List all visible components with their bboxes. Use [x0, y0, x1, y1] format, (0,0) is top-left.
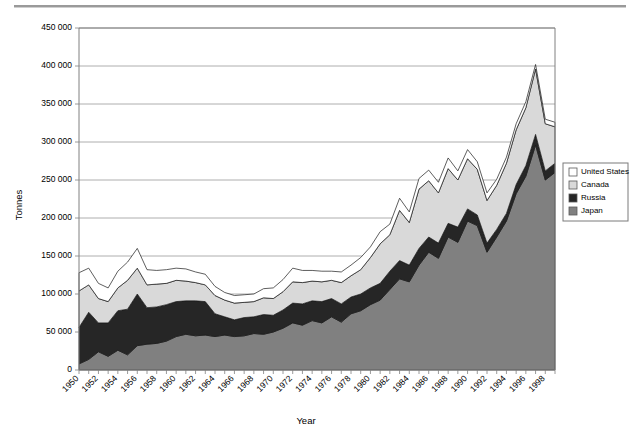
x-tick-label: 1986 — [410, 373, 431, 394]
x-tick-label: 1998 — [526, 373, 547, 394]
x-tick-label: 1996 — [507, 373, 528, 394]
x-tick-label: 1982 — [371, 373, 392, 394]
x-tick-label: 1972 — [274, 373, 295, 394]
x-tick-label: 1964 — [196, 373, 217, 394]
legend-swatch-japan — [569, 207, 577, 215]
legend-label-united-states: United States — [581, 167, 629, 176]
legend-label-canada: Canada — [581, 180, 610, 189]
x-tick-label: 1974 — [293, 373, 314, 394]
y-tick-label: 350 000 — [41, 98, 72, 108]
x-tick-label: 1992 — [468, 373, 489, 394]
x-tick-label: 1950 — [60, 373, 81, 394]
x-tick-label: 1970 — [254, 373, 275, 394]
y-tick-label: 250 000 — [41, 174, 72, 184]
x-tick-label: 1990 — [449, 373, 470, 394]
y-tick-label: 400 000 — [41, 60, 72, 70]
x-tick-label: 1994 — [487, 373, 508, 394]
y-tick-label: 450 000 — [41, 22, 72, 32]
x-tick-label: 1976 — [313, 373, 334, 394]
legend-swatch-russia — [569, 194, 577, 202]
stacked-area-chart: 050 000100 000150 000200 000250 000300 0… — [0, 0, 640, 435]
legend: United StatesCanadaRussiaJapan — [563, 163, 629, 221]
x-axis-title: Year — [296, 415, 315, 426]
x-tick-label: 1956 — [118, 373, 139, 394]
x-tick-label: 1980 — [351, 373, 372, 394]
legend-label-japan: Japan — [581, 206, 603, 215]
x-tick-label: 1988 — [429, 373, 450, 394]
x-tick-label: 1958 — [138, 373, 159, 394]
x-tick-labels: 1950195219541956195819601962196419661968… — [60, 373, 547, 394]
y-tick-labels: 050 000100 000150 000200 000250 000300 0… — [41, 22, 79, 374]
y-tick-label: 200 000 — [41, 212, 72, 222]
y-tick-label: 50 000 — [46, 326, 72, 336]
x-tick-label: 1952 — [79, 373, 100, 394]
x-tick-label: 1984 — [390, 373, 411, 394]
y-tick-label: 150 000 — [41, 250, 72, 260]
x-tick-label: 1978 — [332, 373, 353, 394]
x-tick-label: 1968 — [235, 373, 256, 394]
chart-svg: 050 000100 000150 000200 000250 000300 0… — [0, 0, 640, 435]
x-tick-label: 1960 — [157, 373, 178, 394]
y-axis-title: Tonnes — [13, 189, 24, 220]
y-tick-label: 100 000 — [41, 288, 72, 298]
x-tick-label: 1954 — [99, 373, 120, 394]
plot-areas — [79, 64, 555, 370]
y-tick-label: 0 — [67, 364, 72, 374]
x-tick-label: 1966 — [215, 373, 236, 394]
y-tick-label: 300 000 — [41, 136, 72, 146]
legend-label-russia: Russia — [581, 193, 606, 202]
legend-swatch-canada — [569, 181, 577, 189]
x-tick-label: 1962 — [177, 373, 198, 394]
legend-swatch-united-states — [569, 168, 577, 176]
